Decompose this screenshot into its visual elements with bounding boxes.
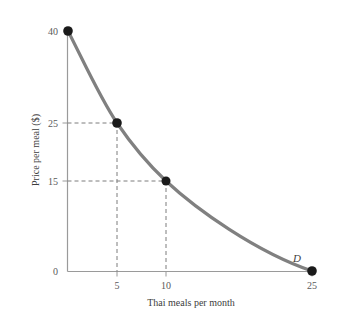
data-point-25-0 xyxy=(307,266,317,276)
chart-background xyxy=(0,0,338,323)
x-tick-label-5: 5 xyxy=(115,280,120,291)
data-point-10-15 xyxy=(162,177,171,186)
demand-curve-label: D xyxy=(292,252,301,264)
x-axis-title: Thai meals per month xyxy=(147,297,234,308)
demand-curve-figure: 40 25 15 0 5 10 25 D Price per meal ($) … xyxy=(0,0,338,323)
y-axis-title: Price per meal ($) xyxy=(30,114,42,186)
chart-canvas: 40 25 15 0 5 10 25 D Price per meal ($) … xyxy=(0,0,338,323)
x-tick-label-25: 25 xyxy=(307,280,317,291)
x-tick-label-10: 10 xyxy=(161,280,171,291)
data-point-0-40 xyxy=(63,26,73,36)
y-tick-label-40: 40 xyxy=(48,26,58,37)
y-tick-label-0: 0 xyxy=(53,266,58,277)
y-tick-label-15: 15 xyxy=(48,176,58,187)
y-tick-label-25: 25 xyxy=(48,118,58,129)
data-point-5-25 xyxy=(112,118,122,128)
